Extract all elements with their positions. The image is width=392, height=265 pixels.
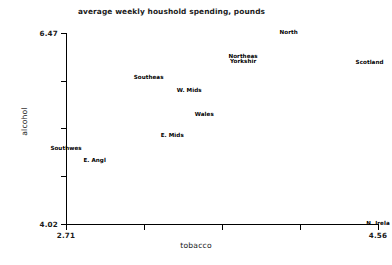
data-point-label: N. Irela xyxy=(366,221,389,227)
data-point-label-line: E. Mids xyxy=(161,133,184,139)
data-point-label: W. Mids xyxy=(177,88,202,94)
data-point-label: North xyxy=(280,30,298,36)
data-point-label: Southeas xyxy=(134,75,164,81)
data-point-label-line: Southeas xyxy=(134,75,164,81)
x-tick-label: 4.56 xyxy=(358,231,392,240)
x-axis-label: tobacco xyxy=(0,241,392,250)
data-point-label-line: Yorkshir xyxy=(228,60,257,66)
data-point-label-line: E. Angl xyxy=(83,158,105,164)
data-point-label: E. Mids xyxy=(161,133,184,139)
y-tick-mark xyxy=(61,33,66,34)
y-tick-label: 4.02 xyxy=(20,220,58,229)
data-point-label-line: Scotland xyxy=(356,61,384,67)
y-tick-mark xyxy=(61,176,66,177)
y-tick-label: 6.47 xyxy=(20,29,58,38)
y-axis-label: alcohol xyxy=(20,92,29,152)
x-tick-mark xyxy=(66,225,67,230)
y-axis-line xyxy=(66,33,67,225)
data-point-label: Southwes xyxy=(50,146,81,152)
chart-title: average weekly houshold spending, pounds xyxy=(78,7,265,16)
data-point-label-line: Southwes xyxy=(50,146,81,152)
y-tick-mark xyxy=(61,128,66,129)
scatter-plot-figure: average weekly houshold spending, pounds… xyxy=(0,0,392,265)
x-tick-mark xyxy=(144,225,145,230)
y-tick-mark xyxy=(61,81,66,82)
x-tick-label: 2.71 xyxy=(46,231,86,240)
data-point-label-line: W. Mids xyxy=(177,88,202,94)
x-tick-mark xyxy=(222,225,223,230)
data-point-label-line: Wales xyxy=(195,112,214,118)
data-point-label-line: North xyxy=(280,30,298,36)
data-point-label: Scotland xyxy=(356,61,384,67)
data-point-label: NortheasYorkshir xyxy=(228,54,257,65)
data-point-label: Wales xyxy=(195,112,214,118)
x-tick-mark xyxy=(300,225,301,230)
data-point-label: E. Angl xyxy=(83,158,105,164)
data-point-label-line: N. Irela xyxy=(366,221,389,227)
